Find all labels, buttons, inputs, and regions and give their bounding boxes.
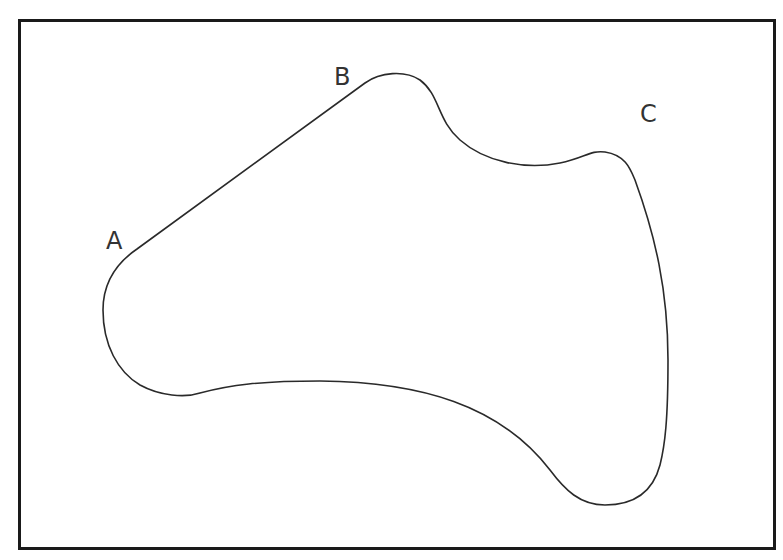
frame-border — [20, 21, 775, 549]
label-b: B — [334, 63, 350, 91]
diagram-canvas: A B C — [0, 0, 783, 560]
closed-curve-path — [103, 74, 668, 505]
label-a: A — [106, 227, 123, 255]
label-c: C — [640, 100, 657, 128]
